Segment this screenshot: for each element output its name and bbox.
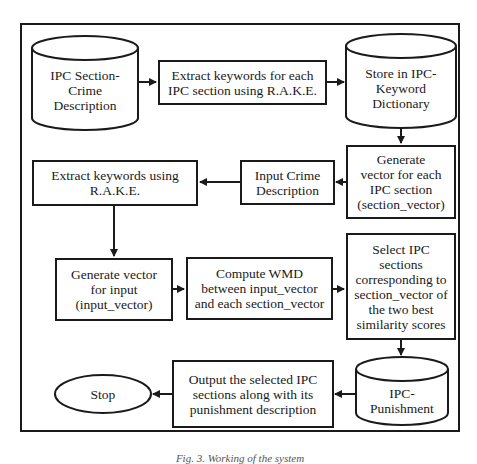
node-generate-input-vector: Generate vector for input (input_vector): [55, 258, 173, 321]
node-label: IPC- Punishment: [370, 386, 434, 416]
node-label: Select IPC sections corresponding to sec…: [354, 242, 447, 332]
node-generate-section-vector: Generate vector for each IPC section (se…: [346, 145, 456, 219]
node-label: Output the selected IPC sections along w…: [189, 372, 318, 417]
node-output-sections: Output the selected IPC sections along w…: [172, 360, 334, 428]
node-label: Input Crime Description: [255, 168, 321, 198]
node-label: Stop: [91, 387, 116, 402]
node-select-ipc-sections: Select IPC sections corresponding to sec…: [346, 233, 456, 340]
node-label: Compute WMD between input_vector and eac…: [195, 266, 325, 311]
node-label: Generate vector for each IPC section (se…: [357, 152, 445, 212]
node-label: Store in IPC- Keyword Dictionary: [365, 66, 436, 111]
node-ipc-punishment: IPC- Punishment: [356, 381, 448, 421]
node-label: Generate vector for input (input_vector): [71, 267, 157, 312]
node-label: Extract keywords for each IPC section us…: [168, 68, 317, 98]
node-label: Extract keywords using R.A.K.E.: [51, 168, 178, 198]
node-ipc-crime-db: IPC Section- Crime Description: [32, 62, 138, 118]
node-compute-wmd: Compute WMD between input_vector and eac…: [186, 257, 333, 320]
figure-caption: Fig. 3. Working of the system: [160, 452, 320, 464]
node-label: IPC Section- Crime Description: [50, 68, 119, 113]
node-keyword-dictionary: Store in IPC- Keyword Dictionary: [346, 60, 456, 116]
node-input-crime-description: Input Crime Description: [240, 160, 335, 205]
node-extract-keywords-input: Extract keywords using R.A.K.E.: [32, 160, 198, 206]
node-stop: Stop: [55, 375, 151, 413]
node-extract-keywords-each-section: Extract keywords for each IPC section us…: [158, 60, 327, 105]
